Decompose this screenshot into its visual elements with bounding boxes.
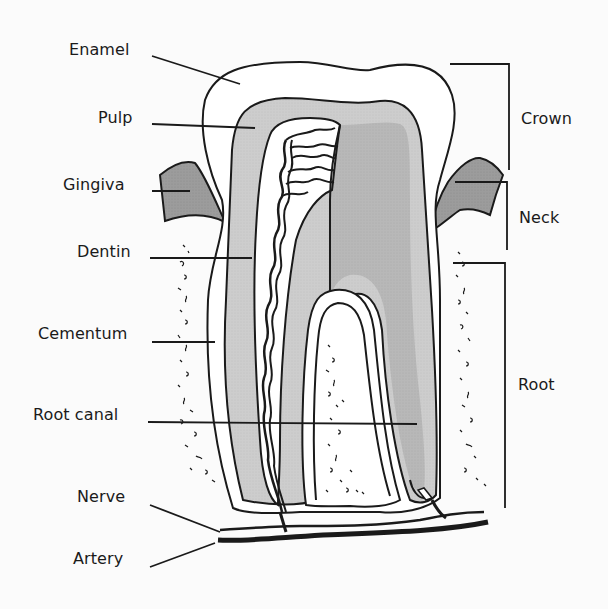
label-pulp: Pulp	[98, 110, 133, 126]
label-crown: Crown	[521, 111, 572, 127]
tooth-illustration	[0, 0, 608, 609]
label-root: Root	[518, 377, 555, 393]
label-nerve: Nerve	[77, 489, 125, 505]
leader-artery	[150, 543, 215, 567]
bracket-root	[453, 263, 505, 508]
label-cementum: Cementum	[38, 326, 127, 342]
label-enamel: Enamel	[69, 42, 130, 58]
label-gingiva: Gingiva	[63, 177, 125, 193]
leader-enamel	[152, 56, 240, 84]
label-dentin: Dentin	[77, 244, 131, 260]
tooth-diagram: Enamel Pulp Gingiva Dentin Cementum Root…	[0, 0, 608, 609]
label-artery: Artery	[73, 551, 123, 567]
label-neck: Neck	[519, 210, 559, 226]
region-brackets	[450, 64, 509, 508]
label-root-canal: Root canal	[33, 407, 118, 423]
leader-nerve	[150, 505, 220, 532]
bracket-crown	[450, 64, 509, 170]
